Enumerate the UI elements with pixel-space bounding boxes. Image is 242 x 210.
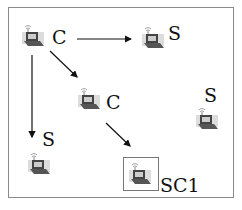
node-label: C <box>52 28 67 47</box>
node-label: S <box>42 130 55 149</box>
wireless-laptop-icon <box>20 23 46 49</box>
node-label: C <box>106 93 121 112</box>
wireless-laptop-icon <box>194 106 220 132</box>
node-label: S <box>168 24 181 43</box>
wireless-laptop-icon <box>26 151 52 177</box>
wireless-laptop-icon <box>127 161 153 187</box>
node-label: S <box>204 86 217 105</box>
node-sc1[interactable] <box>127 161 153 187</box>
wireless-laptop-icon <box>76 86 102 112</box>
node-s-right[interactable] <box>194 106 220 132</box>
node-label: SC1 <box>160 176 200 195</box>
node-c-top-left[interactable] <box>20 23 46 49</box>
wireless-laptop-icon <box>140 25 166 51</box>
node-c-middle[interactable] <box>76 86 102 112</box>
edge-c-to-c-mid <box>50 51 77 77</box>
node-s-bottom-left[interactable] <box>26 151 52 177</box>
node-s-top-right[interactable] <box>140 25 166 51</box>
edge-c-mid-to-sc1 <box>106 123 130 146</box>
